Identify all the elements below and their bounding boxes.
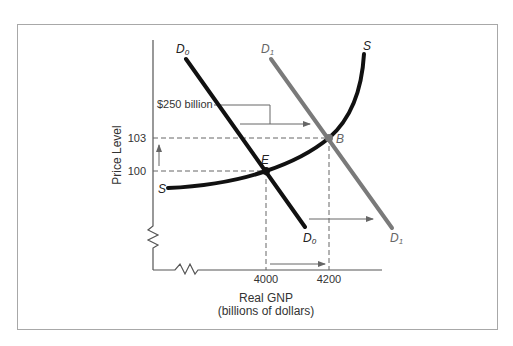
point-b-label: B (336, 132, 344, 146)
point-e-label: E (261, 153, 270, 167)
d1-top-label: D1 (261, 42, 274, 57)
aggregate-demand-supply-diagram: $250 billion E B D0 D0 D1 D1 S S 103 100… (0, 0, 513, 346)
d0-bottom-label: D0 (303, 231, 317, 246)
shift-label: $250 billion (157, 98, 213, 110)
x-axis-title: Real GNP (239, 291, 293, 305)
d1-bottom-label: D1 (390, 231, 403, 246)
x-axis-subtitle: (billions of dollars) (218, 304, 315, 318)
s-top-label: S (363, 39, 371, 53)
y-axis-title: Price Level (110, 125, 124, 184)
y-axis (148, 40, 158, 270)
x-tick-4000: 4000 (254, 273, 278, 285)
guide-lines (153, 138, 329, 270)
y-tick-103: 103 (128, 132, 146, 144)
y-tick-100: 100 (128, 165, 146, 177)
x-tick-4200: 4200 (317, 273, 341, 285)
d0-top-label: D0 (176, 42, 190, 57)
point-b-marker (325, 134, 333, 142)
point-e-marker (262, 167, 270, 175)
s-left-label: S (158, 182, 166, 196)
